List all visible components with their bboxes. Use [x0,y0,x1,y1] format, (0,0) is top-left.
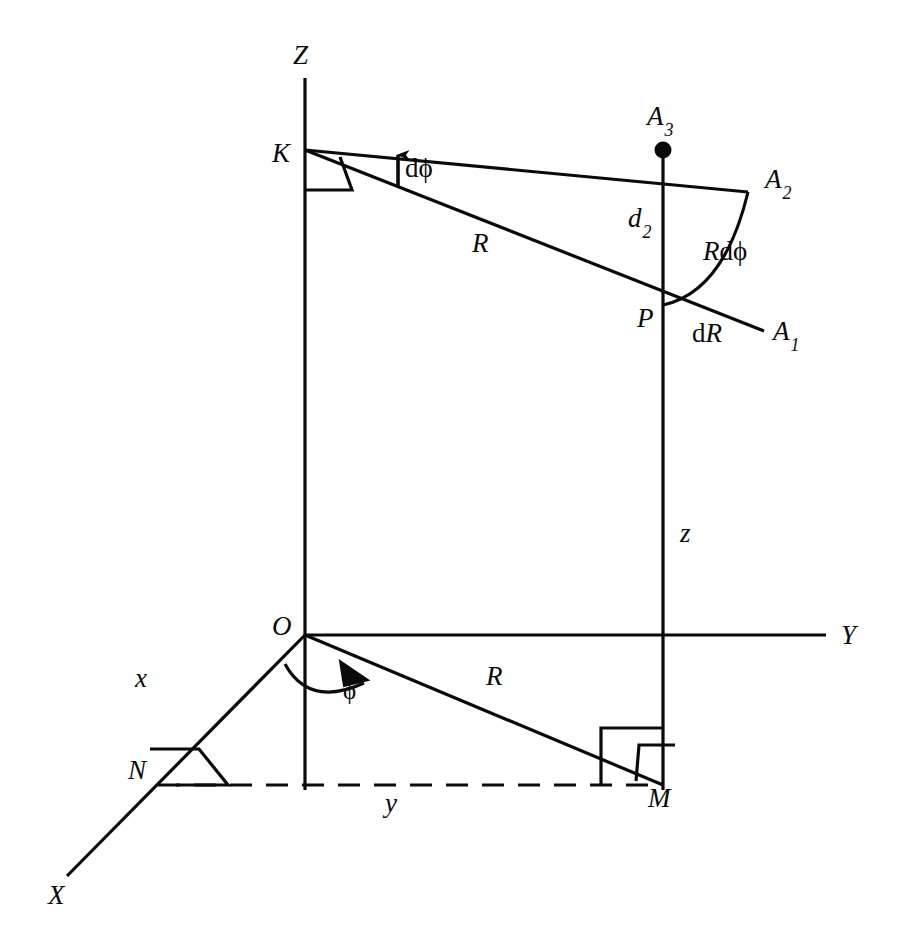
axis-label-z: Z [293,42,308,69]
segment-label-dr-d: d [692,318,706,348]
segment-label-dphi: dϕ [405,155,433,182]
segment-label-x: x [135,665,147,692]
point-label-a2-sub: 2 [783,183,792,203]
line-k-to-a2 [305,150,748,192]
point-label-a1: A1 [773,318,799,349]
point-label-p: P [637,305,654,332]
point-label-a3-base: A [647,101,664,131]
point-label-o: O [272,613,292,640]
angle-label-phi: ϕ [343,678,356,703]
segment-label-dr-r: R [706,318,723,348]
segment-label-rdphi-dphi: dϕ [720,236,748,266]
segment-label-dr: dR [692,320,722,347]
segment-label-r-lower: R [486,663,503,690]
x-axis-line [67,635,305,876]
line-k-to-a1 [305,150,764,331]
axis-label-y: Y [841,622,856,649]
segment-label-y: y [385,790,397,817]
segment-label-d2-base: d [628,203,642,233]
segment-label-d2: d2 [628,205,651,236]
right-angle-mark-k [305,157,352,190]
diagram-canvas [0,0,914,936]
point-label-a3-sub: 3 [665,120,674,140]
geometry-figure: Z Y X K O P A3 A2 A1 N M R R z x y d2 dϕ… [0,0,914,936]
point-label-m: M [648,785,671,812]
point-label-n: N [128,757,146,784]
segment-label-d2-sub: 2 [643,222,652,242]
segment-label-rdphi: Rdϕ [703,238,747,265]
point-label-a3: A3 [647,103,673,134]
point-label-a2: A2 [765,166,791,197]
point-label-a2-base: A [765,164,782,194]
right-angle-mark-m-square [601,728,663,785]
axis-label-x: X [48,882,65,909]
point-label-a1-base: A [773,316,790,346]
point-dot-a3 [655,142,672,159]
point-label-a1-sub: 1 [791,335,800,355]
line-o-to-m [305,635,663,785]
segment-label-r-upper: R [472,230,489,257]
segment-label-z: z [680,520,691,547]
segment-label-rdphi-r: R [703,236,720,266]
point-label-k: K [272,140,290,167]
